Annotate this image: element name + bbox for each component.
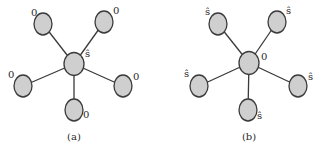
star-graphs-figure: 00000ŝ(a)ŝŝŝŝŝ0(b)	[0, 0, 318, 151]
panel-caption: (a)	[67, 131, 81, 142]
leaf-node-label: ŝ	[205, 6, 210, 17]
leaf-node	[289, 75, 307, 97]
leaf-node-label: 0	[8, 69, 14, 80]
leaf-node	[95, 11, 113, 33]
leaf-node-label: ŝ	[286, 5, 291, 16]
leaf-node	[14, 75, 32, 97]
leaf-node	[209, 13, 227, 35]
leaf-node-label: ŝ	[257, 110, 262, 121]
leaf-node-label: ŝ	[308, 71, 313, 82]
center-node	[64, 53, 84, 76]
center-node-label: ŝ	[85, 48, 90, 59]
panel-caption: (b)	[242, 131, 256, 142]
leaf-node	[65, 99, 83, 121]
leaf-node	[114, 75, 132, 97]
leaf-node-label: 0	[133, 71, 139, 82]
leaf-node	[239, 99, 257, 121]
star-graph-panel-b: ŝŝŝŝŝ0(b)	[184, 5, 313, 142]
leaf-node-label: ŝ	[184, 68, 189, 79]
center-node-label: 0	[261, 51, 267, 62]
center-node	[239, 52, 259, 75]
leaf-node-label: 0	[31, 7, 37, 18]
star-graph-panel-a: 00000ŝ(a)	[8, 5, 139, 142]
leaf-node-label: 0	[83, 109, 89, 120]
leaf-node	[268, 11, 286, 33]
leaf-node-label: 0	[113, 5, 119, 16]
leaf-node	[190, 75, 208, 97]
